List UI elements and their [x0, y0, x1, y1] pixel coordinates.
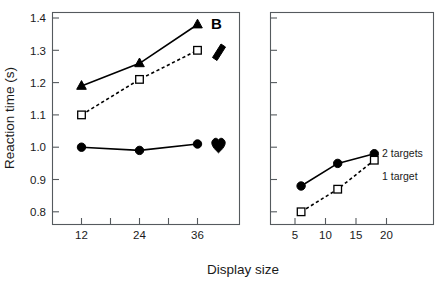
series-heart-marker [193, 140, 201, 148]
y-ticklabel-0.8: 0.8 [30, 206, 46, 218]
series-heart [77, 140, 201, 155]
figure-container: 1.4 1.3 1.2 1.1 1.0 0.9 0.8 12 24 36 [0, 0, 441, 287]
series-heart-marker [135, 146, 143, 154]
left-y-ticks [53, 18, 60, 212]
x-axis-title: Display size [207, 262, 279, 277]
x-ticklabel-5: 5 [292, 229, 298, 241]
series-two-targets-marker [297, 182, 305, 190]
x-ticklabel-12: 12 [75, 229, 88, 241]
x-ticklabel-36: 36 [191, 229, 204, 241]
left-panel: 1.4 1.3 1.2 1.1 1.0 0.9 0.8 12 24 36 [30, 12, 240, 241]
y-axis-title: Reaction time (s) [2, 67, 17, 169]
series-b-marker [135, 58, 145, 67]
series-one-target-marker [371, 156, 379, 164]
series-bar-marker [136, 76, 144, 84]
series-two-targets [297, 150, 379, 191]
right-x-ticks [295, 218, 387, 225]
right-panel-legend: 2 targets 1 target [382, 147, 423, 182]
x-ticklabel-20: 20 [380, 229, 393, 241]
left-x-ticklabels: 12 24 36 [75, 229, 204, 241]
left-y-ticklabels: 1.4 1.3 1.2 1.1 1.0 0.9 0.8 [30, 12, 47, 218]
legend-label-one-target: 1 target [382, 170, 418, 182]
series-b-marker [193, 19, 203, 28]
x-ticklabel-10: 10 [319, 229, 332, 241]
x-ticklabel-24: 24 [133, 229, 146, 241]
series-two-targets-marker [334, 159, 342, 167]
right-panel: 5 10 15 20 2 targets 1 [271, 13, 434, 242]
series-bar-marker [78, 111, 86, 119]
diagonal-bar-icon [213, 44, 226, 61]
x-ticklabel-15: 15 [350, 229, 363, 241]
legend-label-two-targets: 2 targets [382, 147, 423, 159]
heart-icon [212, 138, 225, 153]
left-panel-legend: B [211, 15, 226, 153]
y-ticklabel-1.1: 1.1 [30, 109, 46, 121]
series-bar-marker [194, 47, 202, 55]
y-ticklabel-1.0: 1.0 [30, 141, 46, 153]
series-one-target-marker [334, 185, 342, 193]
legend-letter-b-icon: B [211, 15, 222, 32]
y-ticklabel-1.3: 1.3 [30, 45, 46, 57]
y-ticklabel-0.9: 0.9 [30, 174, 46, 186]
series-heart-marker [77, 143, 85, 151]
right-x-ticklabels: 5 10 15 20 [292, 229, 393, 241]
right-panel-frame [271, 13, 434, 225]
chart-svg: 1.4 1.3 1.2 1.1 1.0 0.9 0.8 12 24 36 [0, 0, 441, 287]
left-x-ticks [82, 218, 198, 225]
y-ticklabel-1.2: 1.2 [30, 77, 46, 89]
series-one-target-marker [297, 208, 305, 216]
y-ticklabel-1.4: 1.4 [30, 12, 47, 24]
right-y-ticks [271, 18, 278, 212]
series-two-targets-line [301, 154, 374, 186]
